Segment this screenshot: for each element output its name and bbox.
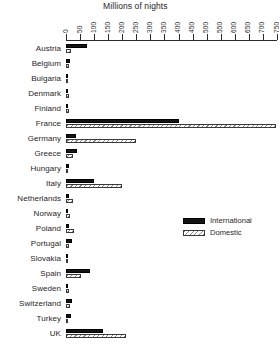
- bar-international: [66, 299, 72, 303]
- bar-international: [66, 209, 68, 213]
- category-label: Netherlands: [0, 194, 61, 203]
- x-tick: [66, 34, 67, 40]
- x-tick-label: 150: [104, 22, 111, 33]
- bar-international: [66, 164, 69, 168]
- x-tick: [164, 34, 165, 40]
- x-tick: [80, 34, 81, 40]
- bar-international: [66, 74, 68, 78]
- bar-domestic: [66, 229, 74, 233]
- legend-label: Domestic: [210, 228, 242, 237]
- x-tick-label: 550: [216, 22, 223, 33]
- bar-international: [66, 269, 90, 273]
- legend-item: International: [183, 215, 252, 226]
- x-tick: [108, 34, 109, 40]
- bar-domestic: [66, 64, 69, 68]
- x-tick: [277, 34, 278, 40]
- chart-legend: InternationalDomestic: [183, 215, 252, 239]
- bar-domestic: [66, 304, 70, 308]
- bar-domestic: [66, 199, 73, 203]
- x-tick-label: 650: [244, 22, 251, 33]
- bar-international: [66, 254, 68, 258]
- bar-international: [66, 44, 87, 48]
- bar-international: [66, 314, 71, 318]
- category-label: Denmark: [0, 89, 61, 98]
- x-tick: [249, 34, 250, 40]
- bar-domestic: [66, 49, 71, 53]
- legend-label: International: [210, 216, 252, 225]
- x-tick: [179, 34, 180, 40]
- category-label: Austria: [0, 44, 61, 53]
- x-tick-label: 750: [273, 22, 280, 33]
- category-label: UK: [0, 329, 61, 338]
- x-tick-label: 0: [62, 29, 69, 33]
- bar-domestic: [66, 169, 68, 173]
- bar-international: [66, 119, 179, 123]
- x-tick: [122, 34, 123, 40]
- bar-domestic: [66, 214, 70, 218]
- bar-international: [66, 59, 70, 63]
- legend-swatch-dom: [183, 230, 205, 236]
- bar-international: [66, 149, 77, 153]
- legend-item: Domestic: [183, 227, 252, 238]
- bar-domestic: [66, 334, 126, 338]
- bar-domestic: [66, 94, 69, 98]
- bar-domestic: [66, 139, 136, 143]
- plot-area: [66, 41, 277, 341]
- x-tick-label: 200: [118, 22, 125, 33]
- bar-international: [66, 284, 68, 288]
- x-tick-label: 500: [202, 22, 209, 33]
- bar-domestic: [66, 109, 69, 113]
- bar-international: [66, 329, 103, 333]
- category-label: Switzerland: [0, 299, 61, 308]
- category-label: Poland: [0, 224, 61, 233]
- category-label: Spain: [0, 269, 61, 278]
- chart-title: Millions of nights: [103, 1, 168, 11]
- bar-international: [66, 104, 68, 108]
- x-tick: [150, 34, 151, 40]
- bar-domestic: [66, 289, 69, 293]
- x-tick: [193, 34, 194, 40]
- x-tick-label: 100: [90, 22, 97, 33]
- x-tick-label: 300: [146, 22, 153, 33]
- x-tick: [207, 34, 208, 40]
- category-label: Germany: [0, 134, 61, 143]
- bar-domestic: [66, 124, 276, 128]
- category-label: Norway: [0, 209, 61, 218]
- x-tick-label: 450: [188, 22, 195, 33]
- category-label: Bulgaria: [0, 74, 61, 83]
- category-label: France: [0, 119, 61, 128]
- x-tick: [136, 34, 137, 40]
- category-label: Greece: [0, 149, 61, 158]
- category-label: Finland: [0, 104, 61, 113]
- bar-domestic: [66, 274, 81, 278]
- x-tick-label: 250: [132, 22, 139, 33]
- x-tick: [221, 34, 222, 40]
- bar-international: [66, 194, 69, 198]
- bar-international: [66, 89, 68, 93]
- category-label: Belgium: [0, 59, 61, 68]
- x-tick-label: 700: [258, 22, 265, 33]
- bar-international: [66, 224, 69, 228]
- category-label: Portugal: [0, 239, 61, 248]
- category-label: Slovakia: [0, 254, 61, 263]
- bar-domestic: [66, 259, 68, 263]
- bar-domestic: [66, 244, 69, 248]
- x-tick-label: 600: [230, 22, 237, 33]
- bar-domestic: [66, 79, 68, 83]
- category-label: Turkey: [0, 314, 61, 323]
- bar-chart: Millions of nights 050100150200250300350…: [0, 0, 279, 344]
- category-label: Italy: [0, 179, 61, 188]
- x-tick: [263, 34, 264, 40]
- bar-international: [66, 134, 76, 138]
- category-label: Sweden: [0, 284, 61, 293]
- bar-domestic: [66, 319, 68, 323]
- x-tick-label: 400: [174, 22, 181, 33]
- x-tick: [94, 34, 95, 40]
- x-tick-label: 50: [76, 25, 83, 33]
- category-label: Hungary: [0, 164, 61, 173]
- bar-international: [66, 179, 94, 183]
- bar-international: [66, 239, 72, 243]
- bar-domestic: [66, 184, 122, 188]
- x-tick-label: 350: [160, 22, 167, 33]
- x-tick: [235, 34, 236, 40]
